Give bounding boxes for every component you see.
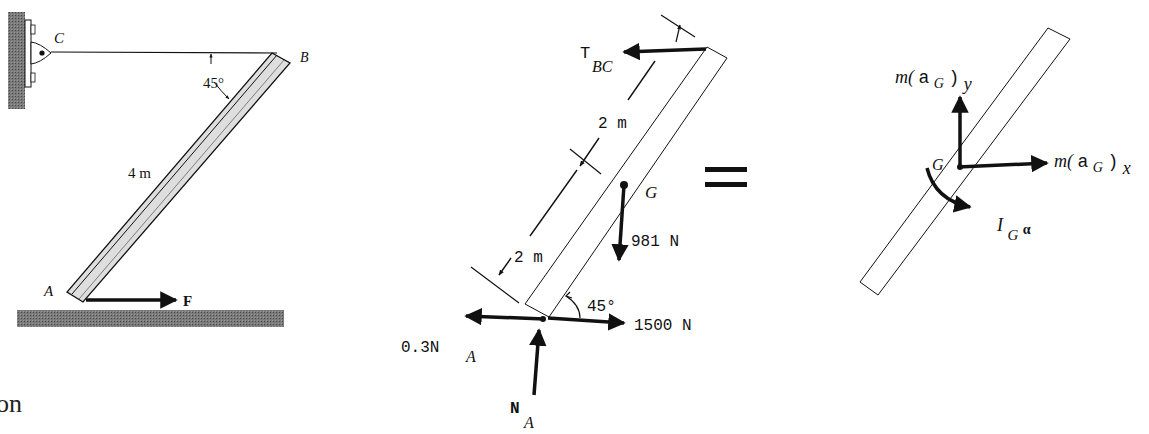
caption-fragment: on bbox=[0, 389, 22, 418]
label-max: m( a G ) x bbox=[1054, 151, 1131, 178]
label-length-4m: 4 m bbox=[128, 165, 151, 181]
applied-force-arrow bbox=[548, 318, 624, 323]
label-friction: 0.3N A bbox=[401, 339, 476, 365]
bracket-plate bbox=[25, 20, 31, 87]
normal-force-arrow bbox=[534, 330, 539, 395]
label-may: m( a G ) y bbox=[895, 67, 972, 94]
equals-sign bbox=[705, 167, 747, 187]
label-a: A bbox=[43, 283, 54, 299]
floor bbox=[17, 310, 284, 327]
label-b: B bbox=[300, 50, 309, 65]
diagram-canvas: C B A 45° 4 m F on bbox=[0, 0, 1149, 434]
label-applied-force: 1500 N bbox=[634, 317, 692, 335]
kinetic-beam bbox=[860, 28, 1070, 295]
label-force-f: F bbox=[183, 293, 192, 309]
tension-arrow bbox=[624, 49, 706, 52]
label-normal: N A bbox=[510, 400, 534, 431]
label-dim-lower: 2 m bbox=[514, 249, 543, 267]
wall bbox=[8, 12, 25, 109]
label-moment: I G α bbox=[996, 215, 1031, 244]
label-g: G bbox=[645, 183, 657, 202]
kinetic-diagram: G m( a G ) y m( a G ) x I G α bbox=[860, 28, 1131, 295]
figure-left: C B A 45° 4 m F on bbox=[0, 12, 309, 418]
friction-arrow bbox=[466, 316, 544, 319]
label-angle-45: 45° bbox=[203, 75, 224, 91]
label-weight: 981 N bbox=[631, 233, 679, 251]
free-body-diagram: T BC 2 m 2 m G 981 N 45° 1500 N 0.3N A N… bbox=[401, 15, 727, 431]
label-dim-upper: 2 m bbox=[598, 115, 627, 133]
beam-ab bbox=[67, 53, 290, 302]
label-c: C bbox=[54, 30, 65, 46]
label-tension: T BC bbox=[580, 44, 613, 75]
cable-bc bbox=[51, 52, 277, 53]
label-g: G bbox=[932, 156, 944, 173]
label-angle-45: 45° bbox=[587, 298, 616, 316]
